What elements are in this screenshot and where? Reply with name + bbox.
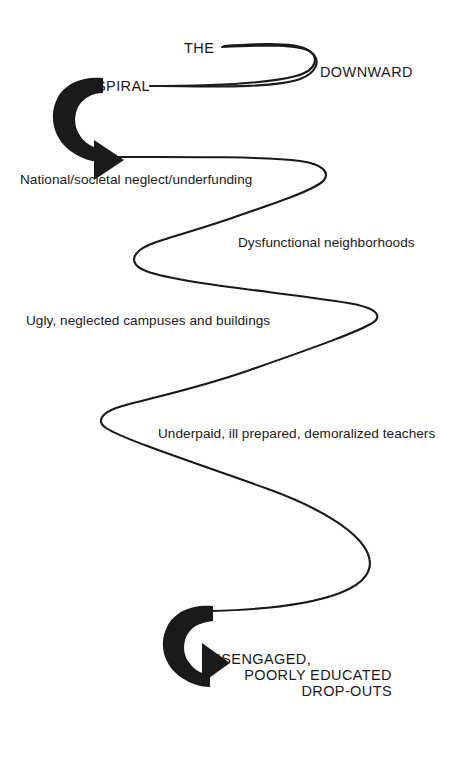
outcome-line-disengaged: DISENGAGED,: [206, 651, 392, 667]
title-word-downward: DOWNWARD: [320, 64, 413, 81]
stage-label-dysfunctional-neighborhoods: Dysfunctional neighborhoods: [238, 235, 415, 251]
stage-label-ugly-neglected-campuses: Ugly, neglected campuses and buildings: [26, 313, 270, 329]
title-word-the: THE: [184, 40, 214, 57]
outcome-line-poorly-educated: POORLY EDUCATED: [206, 667, 392, 683]
spiral-descent-path: [101, 157, 377, 611]
downward-spiral-figure: THE DOWNWARD SPIRAL National/societal ne…: [0, 0, 462, 759]
title-word-spiral: SPIRAL: [96, 78, 150, 95]
spiral-illustration: [0, 0, 462, 759]
stage-label-underpaid-demoralized-teachers: Underpaid, ill prepared, demoralized tea…: [158, 426, 435, 442]
outcome-line-drop-outs: DROP-OUTS: [206, 683, 392, 699]
spiral-main-path: [150, 44, 315, 86]
stage-label-national-societal-neglect: National/societal neglect/underfunding: [20, 172, 252, 188]
spiral-path: [152, 46, 317, 87]
outcome-text-block: DISENGAGED, POORLY EDUCATED DROP-OUTS: [206, 651, 392, 699]
